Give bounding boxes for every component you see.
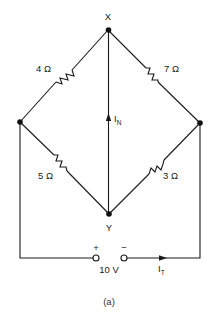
total-current-label: IT <box>158 263 165 276</box>
resistor-r3-label: 5 Ω <box>38 170 53 181</box>
resistor-r2-label: 7 Ω <box>164 63 179 74</box>
circuit-diagram: X Y 4 Ω 7 Ω 5 Ω 3 Ω IN + − 10 V IT (a) <box>0 0 216 316</box>
minus-sign: − <box>121 242 127 253</box>
norton-current-label: IN <box>114 113 122 126</box>
node-left <box>17 119 23 125</box>
node-y <box>106 211 112 217</box>
resistor-r4-branch <box>109 123 200 214</box>
node-x <box>106 27 112 33</box>
figure-caption: (a) <box>103 296 115 307</box>
resistor-r1-label: 4 Ω <box>36 63 51 74</box>
resistor-r1-branch <box>20 30 108 122</box>
resistor-r4-label: 3 Ω <box>163 170 178 181</box>
negative-terminal <box>121 255 127 261</box>
total-current-arrow-icon <box>159 255 167 260</box>
positive-terminal <box>93 255 99 261</box>
node-y-label: Y <box>106 222 113 233</box>
node-right <box>197 120 203 126</box>
source-voltage-label: 10 V <box>99 264 119 275</box>
norton-current-arrow-icon <box>106 113 111 121</box>
outer-left-wire <box>20 122 94 258</box>
node-x-label: X <box>105 11 112 22</box>
resistor-r3-branch <box>20 122 109 214</box>
resistor-r2-branch <box>108 30 200 123</box>
outer-right-wire <box>127 123 201 258</box>
plus-sign: + <box>93 242 99 253</box>
